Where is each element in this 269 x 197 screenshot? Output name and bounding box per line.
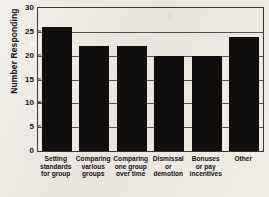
y-tick-label-0: 0: [8, 146, 34, 155]
x-tick-label-line: Bonuses: [187, 155, 225, 163]
x-tick-label-line: one group: [112, 163, 150, 171]
bar: [154, 56, 184, 151]
y-tick-mark-15: [37, 78, 41, 79]
x-tick-label-line: or: [150, 163, 188, 171]
y-tick-label-25: 25: [8, 26, 34, 35]
x-tick-label-line: Other: [225, 155, 263, 163]
x-tick-label: Dismissalordemotion: [150, 155, 188, 178]
y-tick-mark-10: [37, 102, 41, 103]
y-tick-label-15: 15: [8, 74, 34, 83]
x-tick-label-line: standards: [37, 163, 75, 171]
x-tick-label-line: Comparing: [75, 155, 113, 163]
x-tick-label-line: various: [75, 163, 113, 171]
y-tick-label-10: 10: [8, 98, 34, 107]
bar: [79, 46, 109, 151]
x-tick-label-line: Setting: [37, 155, 75, 163]
gridline-25: [38, 32, 263, 33]
bar: [229, 37, 259, 151]
y-tick-label-20: 20: [8, 50, 34, 59]
y-tick-mark-25: [37, 30, 41, 31]
y-tick-label-30: 30: [8, 3, 34, 12]
x-tick-label-line: Comparing: [112, 155, 150, 163]
x-tick-label-line: Dismissal: [150, 155, 188, 163]
x-tick-label-line: over time: [112, 170, 150, 178]
bar-chart-figure: Number Responding 051015202530 Settingst…: [0, 0, 269, 197]
x-tick-label-line: for group: [37, 170, 75, 178]
x-axis-tick-labels: Settingstandardsfor groupComparingvariou…: [37, 155, 264, 195]
bar: [192, 56, 222, 151]
y-tick-mark-20: [37, 54, 41, 55]
y-tick-mark-5: [37, 126, 41, 127]
x-tick-label-line: groups: [75, 170, 113, 178]
plot-area: [37, 7, 264, 152]
x-tick-label: Other: [225, 155, 263, 163]
x-tick-label: Settingstandardsfor group: [37, 155, 75, 178]
bar: [42, 27, 72, 151]
x-tick-label: Bonusesor payincentives: [187, 155, 225, 178]
x-tick-label-line: incentives: [187, 170, 225, 178]
x-tick-label-line: demotion: [150, 170, 188, 178]
bar: [117, 46, 147, 151]
x-tick-label: Comparingvariousgroups: [75, 155, 113, 178]
y-tick-label-5: 5: [8, 122, 34, 131]
x-tick-label-line: or pay: [187, 163, 225, 171]
x-tick-label: Comparingone groupover time: [112, 155, 150, 178]
